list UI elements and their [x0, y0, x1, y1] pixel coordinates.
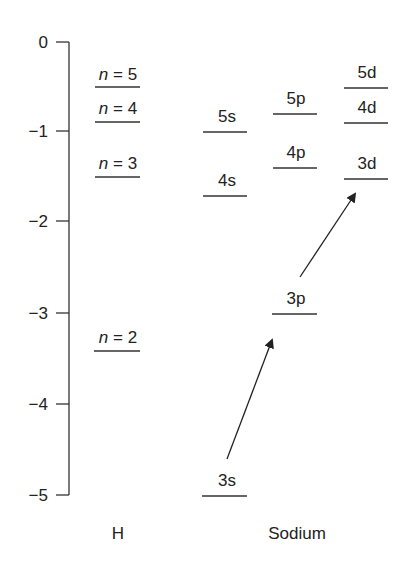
- y-tick-minus-3: −3: [29, 304, 48, 323]
- transition-arrow-3p-3d: [300, 194, 355, 277]
- label-n3: n = 3: [99, 154, 137, 173]
- hydrogen-levels: n = 5 n = 4 n = 3 n = 2: [94, 65, 140, 351]
- column-label-h: H: [112, 524, 124, 543]
- label-n4: n = 4: [99, 99, 137, 118]
- y-tick-minus-5: −5: [29, 486, 48, 505]
- label-3s: 3s: [218, 471, 236, 490]
- sodium-s-levels: 5s 4s 3s: [202, 107, 247, 496]
- sodium-p-levels: 5p 4p 3p: [272, 89, 317, 314]
- y-axis: 0 −1 −2 −3 −4 −5: [29, 33, 69, 505]
- label-5s: 5s: [218, 107, 236, 126]
- label-5d: 5d: [358, 63, 377, 82]
- label-5p: 5p: [287, 89, 306, 108]
- energy-level-diagram: 0 −1 −2 −3 −4 −5 n = 5 n = 4 n = 3 n = 2…: [0, 0, 407, 562]
- label-4s: 4s: [218, 171, 236, 190]
- y-tick-0: 0: [39, 33, 48, 52]
- label-4p: 4p: [287, 143, 306, 162]
- label-n2: n = 2: [99, 328, 137, 347]
- label-4d: 4d: [358, 98, 377, 117]
- label-n5: n = 5: [99, 65, 137, 84]
- column-label-sodium: Sodium: [268, 524, 326, 543]
- y-tick-minus-4: −4: [29, 395, 48, 414]
- sodium-d-levels: 5d 4d 3d: [344, 63, 388, 179]
- y-tick-minus-2: −2: [29, 212, 48, 231]
- label-3d: 3d: [358, 154, 377, 173]
- label-3p: 3p: [287, 289, 306, 308]
- transition-arrow-3s-3p: [227, 340, 272, 459]
- y-tick-minus-1: −1: [29, 122, 48, 141]
